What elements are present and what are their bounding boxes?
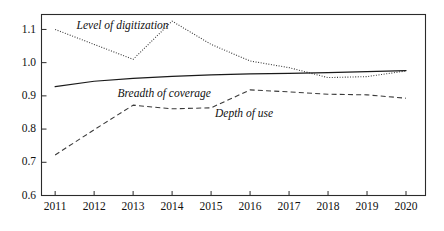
chart-container: 0.60.70.80.91.01.1 201120122013201420152… [0, 0, 444, 231]
x-tick-label: 2012 [83, 200, 106, 212]
y-tick-label: 1.1 [22, 23, 37, 35]
x-tick-label: 2020 [395, 200, 418, 212]
y-tick-label: 0.9 [22, 89, 37, 101]
x-tick-label: 2011 [44, 200, 67, 212]
x-tick-label: 2015 [200, 200, 223, 212]
y-tick-label: 0.8 [22, 122, 37, 134]
x-tick-label: 2019 [356, 200, 379, 212]
x-tick-label: 2017 [278, 200, 301, 212]
x-tick-label: 2014 [161, 200, 184, 212]
series-label-level-of-digitization: Level of digitization [76, 19, 169, 32]
line-chart: 0.60.70.80.91.01.1 201120122013201420152… [0, 0, 444, 231]
y-tick-label: 1.0 [22, 56, 37, 68]
y-tick-label: 0.6 [22, 189, 37, 201]
x-tick-label: 2013 [122, 200, 145, 212]
series-label-depth-of-use: Depth of use [214, 107, 273, 120]
y-tick-label: 0.7 [22, 155, 37, 167]
series-label-breadth-of-coverage: Breadth of coverage [118, 87, 211, 100]
x-tick-label: 2018 [317, 200, 340, 212]
x-tick-label: 2016 [239, 200, 262, 212]
